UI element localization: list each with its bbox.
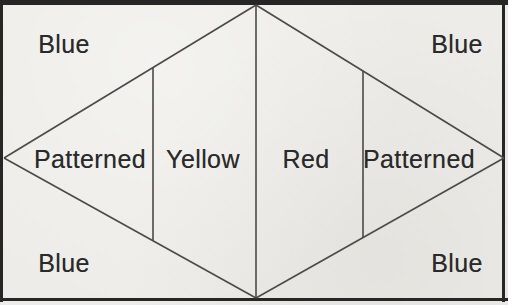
label-yellow: Yellow: [166, 145, 240, 174]
label-blue-bottom-left: Blue: [38, 249, 90, 278]
label-red: Red: [282, 145, 329, 174]
rhombus-edge-top-right: [256, 5, 504, 158]
label-blue-top-right: Blue: [431, 30, 483, 59]
label-patterned-right: Patterned: [363, 145, 475, 174]
label-blue-bottom-right: Blue: [431, 249, 483, 278]
label-blue-top-left: Blue: [38, 30, 90, 59]
rhombus-edge-top-left: [4, 5, 256, 158]
label-patterned-left: Patterned: [34, 145, 146, 174]
diamond-color-diagram: Blue Blue Blue Blue Patterned Yellow Red…: [0, 0, 508, 305]
